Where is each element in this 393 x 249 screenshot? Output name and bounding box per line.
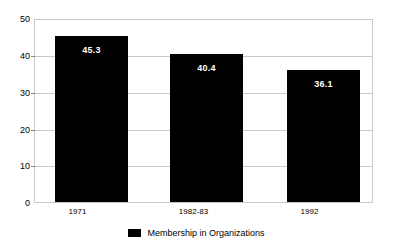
bar-value-label-1971: 45.3 — [55, 45, 128, 55]
plot-area: 45.3 40.4 36.1 — [34, 19, 373, 203]
y-axis-tick-label-50: 50 — [0, 15, 30, 24]
y-axis-tick-label-10: 10 — [0, 162, 30, 171]
legend-label-membership: Membership in Organizations — [147, 228, 264, 238]
chart-legend: Membership in Organizations — [0, 228, 393, 238]
y-tick-mark-30 — [31, 93, 35, 94]
y-axis-labels: 50 40 30 20 10 0 — [0, 0, 30, 249]
y-tick-mark-20 — [31, 130, 35, 131]
y-axis-tick-label-30: 30 — [0, 89, 30, 98]
bar-1971[interactable]: 45.3 — [55, 36, 128, 202]
bar-1992[interactable]: 36.1 — [287, 70, 360, 202]
x-axis-tick-label-1992: 1992 — [273, 207, 346, 217]
x-axis-tick-label-1982-83: 1982-83 — [157, 207, 230, 217]
legend-swatch-membership — [128, 229, 141, 237]
y-axis-tick-label-0: 0 — [0, 199, 30, 208]
bar-value-label-1992: 36.1 — [287, 79, 360, 89]
y-axis-tick-label-40: 40 — [0, 52, 30, 61]
y-axis-tick-label-20: 20 — [0, 126, 30, 135]
bar-value-label-1982-83: 40.4 — [170, 63, 243, 73]
y-tick-mark-10 — [31, 166, 35, 167]
bar-1982-83[interactable]: 40.4 — [170, 54, 243, 202]
bar-chart: 50 40 30 20 10 0 45.3 40.4 36.1 1971 198… — [0, 0, 393, 249]
x-axis-tick-label-1971: 1971 — [41, 207, 114, 217]
y-tick-mark-40 — [31, 56, 35, 57]
